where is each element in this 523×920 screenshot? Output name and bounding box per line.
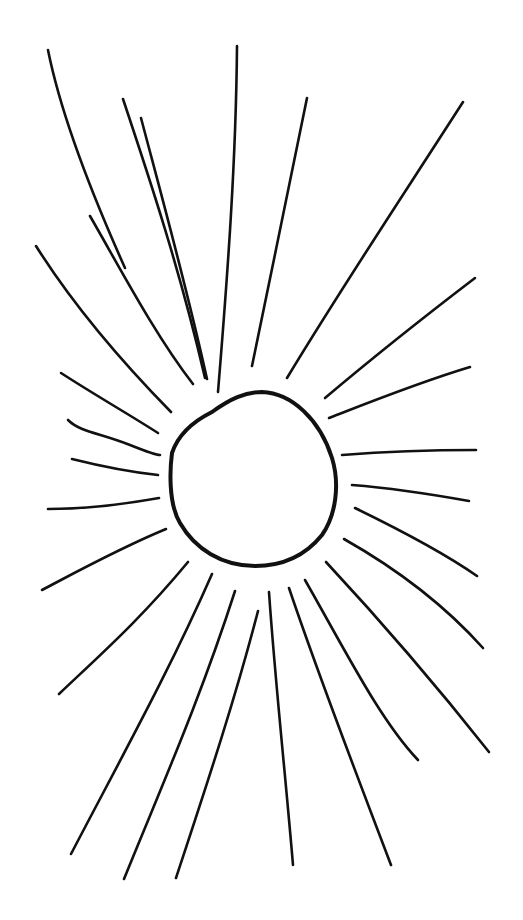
sun-ray: [218, 46, 237, 392]
sun-ray: [48, 498, 159, 509]
sun-ray: [325, 278, 475, 398]
sun-ray: [269, 592, 293, 865]
sun-disc: [170, 392, 336, 566]
sun-ray: [305, 580, 418, 760]
sun-ray: [176, 611, 258, 878]
sun-rays: [36, 46, 489, 879]
sun-ray: [252, 98, 307, 366]
sun-ray: [352, 485, 469, 501]
sun-ray: [72, 459, 158, 475]
sun-ray: [90, 216, 193, 384]
sun-ray: [355, 508, 477, 576]
sun-ray: [344, 539, 483, 648]
sun-ray: [124, 591, 235, 879]
sun-ray: [287, 102, 463, 378]
sun-ray: [141, 118, 207, 379]
sun-drawing-canvas: Hand-drawn sun: [0, 0, 523, 920]
sun-ray: [289, 588, 391, 865]
sun-icon: [0, 0, 523, 920]
sun-ray: [59, 562, 188, 694]
sun-ray: [329, 367, 470, 418]
sun-ray: [326, 562, 489, 752]
sun-ray: [48, 50, 125, 268]
sun-ray: [36, 246, 171, 412]
sun-ray: [123, 99, 205, 378]
sun-ray: [342, 450, 476, 455]
sun-ray: [42, 529, 166, 590]
